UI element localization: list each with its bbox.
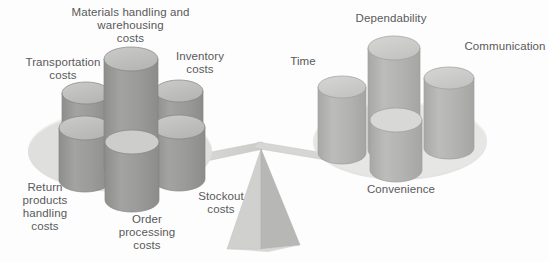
label-communication: Communication (461, 40, 549, 53)
cylinder-order-processing (105, 130, 159, 212)
diagram-canvas: Transportation costs Materials handling … (0, 0, 549, 262)
cylinder-communication (424, 67, 474, 159)
label-transportation-costs: Transportation costs (8, 56, 118, 82)
cylinder-convenience (370, 108, 422, 182)
cylinder-right-front (153, 115, 205, 191)
label-dependability: Dependability (345, 12, 437, 25)
label-inventory-costs: Inventory costs (164, 50, 236, 76)
label-time: Time (283, 55, 323, 68)
label-stockout-costs: Stockout costs (186, 190, 256, 216)
label-convenience: Convenience (357, 183, 445, 196)
label-order-processing-costs: Order processing costs (107, 213, 187, 252)
label-materials-handling-costs: Materials handling and warehousing costs (63, 6, 198, 45)
label-return-products-handling-costs: Return products handling costs (10, 181, 80, 233)
cylinder-time (318, 76, 366, 164)
